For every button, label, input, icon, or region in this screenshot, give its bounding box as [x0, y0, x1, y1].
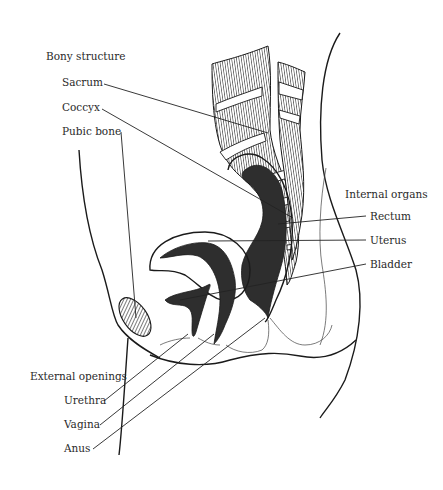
- label-vagina: Vagina: [63, 418, 100, 430]
- label-uterus: Uterus: [370, 234, 406, 246]
- leader-pubic-bone: [121, 132, 136, 318]
- heading-external-openings: External openings: [30, 370, 127, 382]
- label-pubic-bone: Pubic bone: [62, 125, 121, 137]
- rectum: [241, 165, 286, 318]
- heading-internal-organs: Internal organs: [345, 188, 428, 200]
- bladder: [165, 284, 210, 336]
- leader-urethra: [104, 334, 188, 401]
- heading-bony-structure: Bony structure: [46, 50, 126, 62]
- pelvis-anatomy-diagram: Bony structure Sacrum Coccyx Pubic bone …: [0, 0, 443, 490]
- pubic-bone: [113, 292, 158, 342]
- label-urethra: Urethra: [64, 394, 106, 406]
- leader-anus: [93, 318, 265, 449]
- peritoneum-line: [320, 168, 326, 345]
- label-rectum: Rectum: [370, 210, 411, 222]
- label-coccyx: Coccyx: [62, 101, 100, 113]
- thigh-outline: [119, 338, 128, 455]
- label-sacrum: Sacrum: [62, 76, 103, 88]
- label-bladder: Bladder: [370, 258, 413, 270]
- back-outline: [320, 33, 360, 418]
- label-anus: Anus: [63, 442, 91, 454]
